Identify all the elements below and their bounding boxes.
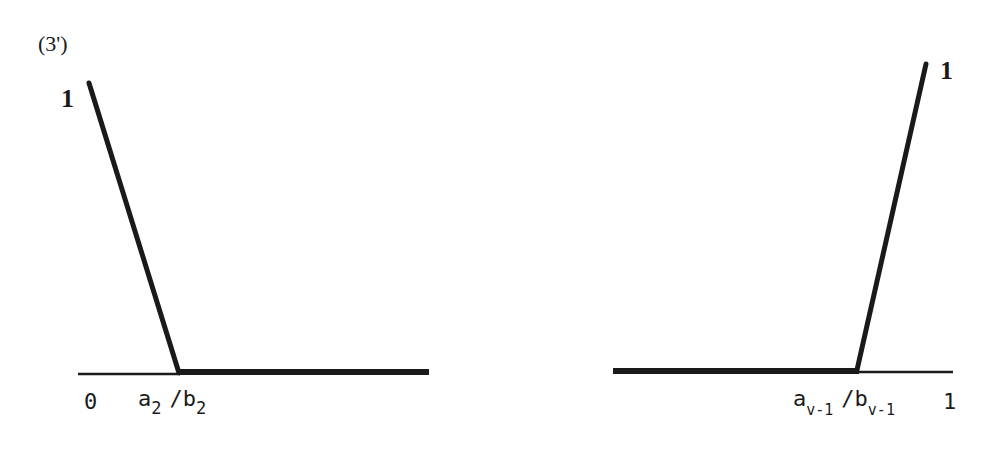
left-break-numerator-subscript: 2	[151, 398, 161, 418]
left-break-separator: /	[170, 386, 183, 411]
right-y-top-label: 1	[940, 56, 953, 86]
right-break-numerator: a	[793, 386, 806, 411]
left-x-origin-label: 0	[84, 389, 97, 414]
left-x-break-label: a2/b2	[138, 386, 206, 411]
right-x-break-label: av-1/bv-1	[793, 386, 895, 411]
left-break-numerator: a	[138, 386, 151, 411]
right-break-denominator: b	[855, 386, 868, 411]
figure: (3') 1 0 a2/b2 1 1 av-1/bv-1	[0, 0, 1003, 458]
left-y-top-label: 1	[61, 84, 74, 114]
right-x-end-label: 1	[943, 389, 956, 414]
right-panel-plot	[613, 64, 953, 372]
right-rising-line	[857, 64, 926, 370]
figure-label: (3')	[38, 31, 68, 57]
right-break-numerator-subscript: v-1	[806, 401, 833, 419]
left-descending-line	[89, 83, 179, 373]
left-break-denominator-subscript: 2	[196, 398, 206, 418]
right-break-denominator-subscript: v-1	[868, 401, 895, 419]
right-break-separator: /	[841, 386, 854, 411]
left-panel-plot	[78, 83, 429, 374]
left-break-denominator: b	[183, 386, 196, 411]
